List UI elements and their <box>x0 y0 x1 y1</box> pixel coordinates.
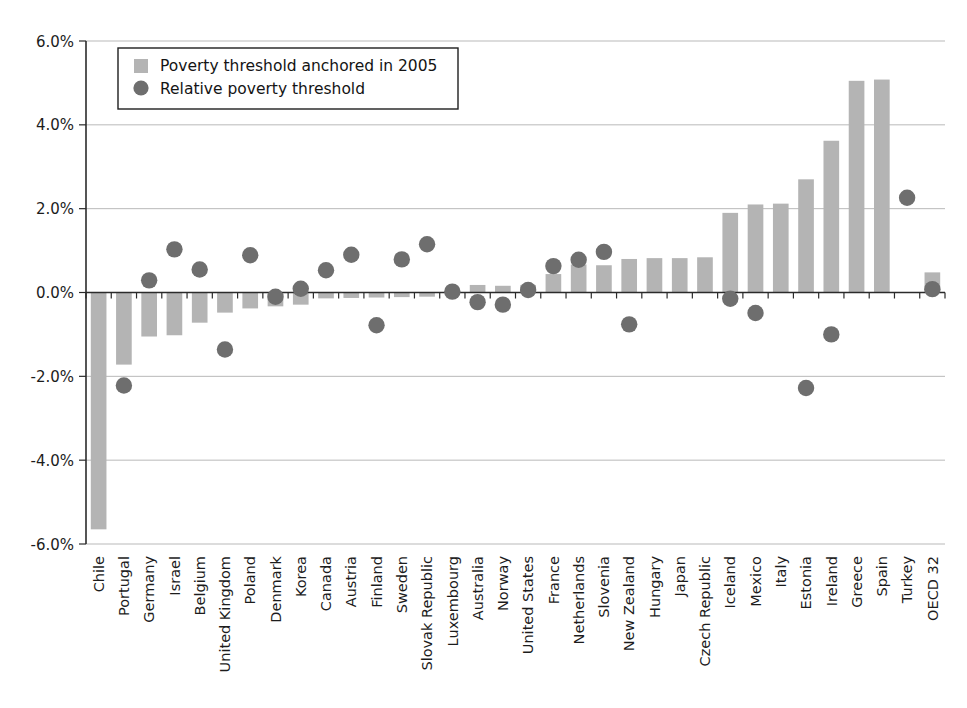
y-tick-label: 2.0% <box>36 200 74 218</box>
bar-germany <box>141 293 157 337</box>
x-tick-label: United States <box>520 556 536 654</box>
legend-label-bar: Poverty threshold anchored in 2005 <box>160 57 437 75</box>
x-tick-label: Sweden <box>394 556 410 613</box>
y-tick-label: 6.0% <box>36 33 74 51</box>
x-tick-label: Finland <box>369 556 385 608</box>
legend-label-dot: Relative poverty threshold <box>160 80 365 98</box>
dot-estonia <box>798 380 814 396</box>
bar-mexico <box>748 204 764 292</box>
x-tick-label: Netherlands <box>571 556 587 644</box>
dot-israel <box>166 241 182 257</box>
x-tick-label: Chile <box>91 556 107 592</box>
y-tick-label: 0.0% <box>36 284 74 302</box>
dot-korea <box>293 281 309 297</box>
bar-australia <box>470 285 486 293</box>
dot-slovak-republic <box>419 236 435 252</box>
bar-iceland <box>722 213 738 293</box>
x-tick-label: Austria <box>343 556 359 607</box>
x-tick-label: New Zealand <box>621 556 637 651</box>
dot-luxembourg <box>444 283 460 299</box>
bar-ireland <box>823 141 839 293</box>
dot-canada <box>318 262 334 278</box>
bar-austria <box>343 293 359 298</box>
x-tick-label: Australia <box>470 556 486 620</box>
x-tick-label: Denmark <box>268 555 284 622</box>
x-tick-label: United Kingdom <box>217 556 233 672</box>
x-tick-label: Czech Republic <box>697 556 713 666</box>
dot-france <box>545 258 561 274</box>
bar-chile <box>91 293 107 530</box>
dot-united-kingdom <box>217 341 233 357</box>
bar-italy <box>773 204 789 293</box>
dot-austria <box>343 247 359 263</box>
y-axis-labels: 6.0%4.0%2.0%0.0%-2.0%-4.0%-6.0% <box>30 33 86 554</box>
dot-australia <box>469 294 485 310</box>
x-axis-labels: ChilePortugalGermanyIsraelBelgiumUnited … <box>91 555 941 672</box>
dot-mexico <box>747 305 763 321</box>
y-tick-label: -6.0% <box>30 536 74 554</box>
dot-germany <box>141 272 157 288</box>
bar-united-kingdom <box>217 293 233 313</box>
dot-netherlands <box>570 252 586 268</box>
x-tick-label: Japan <box>672 556 688 597</box>
dot-iceland <box>722 291 738 307</box>
dot-oecd-32 <box>924 281 940 297</box>
x-tick-label: Hungary <box>647 556 663 618</box>
bar-portugal <box>116 293 132 365</box>
x-tick-label: Turkey <box>899 556 915 605</box>
y-tick-label: 4.0% <box>36 116 74 134</box>
x-tick-label: Portugal <box>116 556 132 616</box>
x-tick-label: Slovak Republic <box>419 556 435 671</box>
legend: Poverty threshold anchored in 2005Relati… <box>118 48 458 109</box>
bar-poland <box>242 293 258 309</box>
x-tick-label: Mexico <box>748 556 764 607</box>
y-tick-label: -4.0% <box>30 452 74 470</box>
x-tick-label: OECD 32 <box>925 556 941 621</box>
bar-israel <box>167 293 183 336</box>
bar-japan <box>672 258 688 292</box>
x-tick-label: Norway <box>495 556 511 611</box>
dot-sweden <box>394 251 410 267</box>
x-tick-label: Poland <box>242 556 258 604</box>
dot-portugal <box>116 377 132 393</box>
dot-poland <box>242 247 258 263</box>
dot-norway <box>495 296 511 312</box>
x-tick-label: Greece <box>849 556 865 608</box>
dot-united-states <box>520 282 536 298</box>
x-tick-marks <box>86 293 945 299</box>
bar-slovenia <box>596 265 612 292</box>
chart-canvas: 6.0%4.0%2.0%0.0%-2.0%-4.0%-6.0%ChilePort… <box>0 0 967 708</box>
x-tick-label: Canada <box>318 556 334 611</box>
dot-turkey <box>899 190 915 206</box>
bar-france <box>546 274 562 292</box>
bar-netherlands <box>571 264 587 292</box>
bar-series <box>91 80 940 530</box>
dot-belgium <box>191 261 207 277</box>
bar-norway <box>495 286 511 293</box>
x-tick-label: Israel <box>167 556 183 596</box>
y-tick-label: -2.0% <box>30 368 74 386</box>
x-tick-label: Korea <box>293 556 309 597</box>
x-tick-label: Luxembourg <box>445 556 461 646</box>
bar-new-zealand <box>621 259 637 293</box>
bar-greece <box>849 81 865 293</box>
legend-swatch-bar <box>134 59 148 73</box>
x-tick-label: Spain <box>874 556 890 597</box>
x-tick-label: Iceland <box>722 556 738 608</box>
bar-spain <box>874 80 890 293</box>
x-tick-label: Slovenia <box>596 556 612 618</box>
bar-czech-republic <box>697 257 713 292</box>
dot-new-zealand <box>621 316 637 332</box>
x-tick-label: Ireland <box>824 556 840 606</box>
x-tick-label: Estonia <box>798 556 814 609</box>
x-tick-label: France <box>546 556 562 604</box>
x-tick-label: Germany <box>141 556 157 623</box>
bar-hungary <box>647 258 663 292</box>
dot-denmark <box>267 288 283 304</box>
dot-finland <box>368 317 384 333</box>
bar-estonia <box>798 179 814 292</box>
x-tick-label: Italy <box>773 556 789 588</box>
bar-belgium <box>192 293 208 323</box>
dot-slovenia <box>596 244 612 260</box>
bar-canada <box>318 293 334 299</box>
